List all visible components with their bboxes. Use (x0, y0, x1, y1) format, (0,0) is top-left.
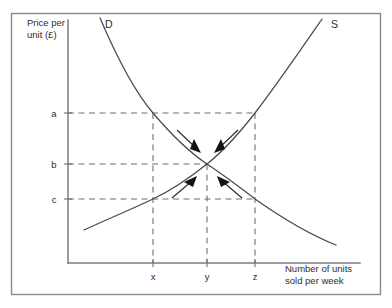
x-axis-title-line1: Number of units (285, 263, 352, 274)
supply-curve-label: S (331, 18, 338, 30)
demand-curve-label: D (105, 18, 113, 30)
x-axis-title-line2: sold per week (285, 275, 344, 286)
arrow-upper-right (214, 130, 238, 153)
y-tick-label-b: b (51, 159, 56, 170)
tick-marks-group (64, 113, 255, 267)
supply-curve (84, 19, 322, 230)
x-tick-label-z: z (253, 271, 258, 282)
y-axis-title-line2: unit (£) (27, 29, 57, 40)
axes-group (68, 20, 360, 263)
x-tick-label-x: x (151, 271, 156, 282)
guide-lines-group (68, 113, 255, 263)
supply-demand-figure: Price per unit (£) Number of units sold … (0, 0, 392, 308)
x-tick-label-y: y (205, 271, 210, 282)
y-axis-title-line1: Price per (27, 17, 65, 28)
figure-border (12, 14, 381, 295)
demand-curve (100, 18, 336, 245)
y-tick-label-a: a (51, 108, 57, 119)
y-tick-label-c: c (52, 194, 57, 205)
